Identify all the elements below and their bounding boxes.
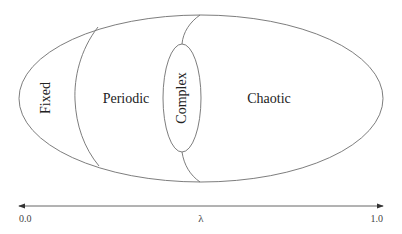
axis-variable-label: λ — [198, 212, 204, 224]
region-label-chaotic: Chaotic — [247, 91, 291, 106]
axis-max-label: 1.0 — [371, 213, 384, 224]
region-label-periodic: Periodic — [103, 91, 150, 106]
complex-top-connector — [182, 15, 200, 44]
axis-min-label: 0.0 — [19, 213, 32, 224]
dynamics-regimes-diagram: Fixed Periodic Complex Chaotic 0.0 λ 1.0 — [0, 0, 402, 234]
fixed-periodic-boundary — [75, 27, 99, 166]
region-label-fixed: Fixed — [38, 82, 53, 114]
complex-bottom-connector — [182, 152, 200, 182]
region-label-complex: Complex — [174, 72, 189, 123]
